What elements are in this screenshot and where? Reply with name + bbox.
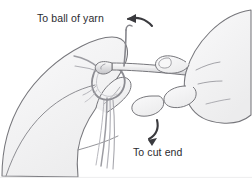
label-to-cut-end: To cut end xyxy=(133,147,182,158)
illustration-figure: To ball of yarn To cut end xyxy=(0,0,252,178)
right-hand-lower-finger xyxy=(132,96,164,116)
crochet-illustration-svg xyxy=(0,0,252,178)
left-hand xyxy=(2,37,131,177)
yarn-ply-b xyxy=(113,100,115,169)
crochet-hook-head xyxy=(95,62,112,74)
arrow-to-cut-end xyxy=(148,120,158,146)
left-hand-wrist-edge xyxy=(78,136,118,150)
arrow-to-ball-of-yarn xyxy=(127,14,152,26)
right-hand-mass xyxy=(184,10,251,123)
crochet-hook-upper-tip xyxy=(126,25,132,30)
arrow-to-ball-of-yarn-head xyxy=(127,14,136,23)
arrow-to-cut-end-curve xyxy=(149,120,158,139)
label-to-ball-of-yarn: To ball of yarn xyxy=(37,13,104,24)
